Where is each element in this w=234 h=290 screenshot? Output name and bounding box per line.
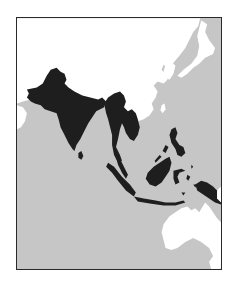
map-frame: South and Southeast Asia [16,17,222,270]
map-svg [17,18,221,269]
